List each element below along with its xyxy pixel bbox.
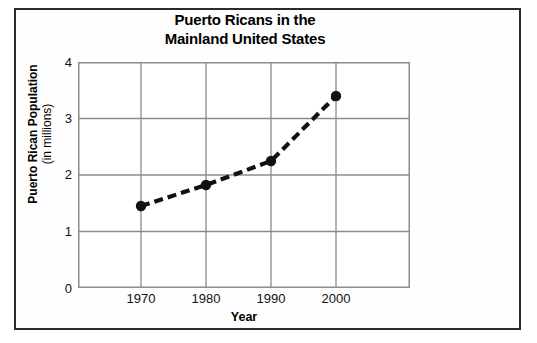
- chart-title-line-2: Mainland United States: [70, 29, 420, 48]
- y-axis-title-main: Puerto Rican Population: [26, 34, 40, 234]
- y-tick-3: 3: [50, 112, 72, 125]
- y-axis-tick-labels: 4 3 2 1 0: [46, 62, 72, 288]
- x-tick-1990: 1990: [241, 292, 301, 306]
- data-point-1980[interactable]: [201, 180, 211, 190]
- plot-area: [78, 62, 410, 288]
- chart-title: Puerto Ricans in the Mainland United Sta…: [70, 10, 420, 48]
- y-tick-0: 0: [50, 282, 72, 295]
- data-point-1990[interactable]: [266, 156, 276, 166]
- y-tick-1: 1: [50, 225, 72, 238]
- x-axis-title: Year: [78, 310, 410, 324]
- y-tick-4: 4: [50, 56, 72, 69]
- x-tick-2000: 2000: [306, 292, 366, 306]
- chart-title-line-1: Puerto Ricans in the: [174, 11, 315, 28]
- data-point-2000[interactable]: [331, 91, 341, 101]
- plot-svg: [78, 62, 410, 288]
- x-tick-1970: 1970: [111, 292, 171, 306]
- x-axis-tick-labels: 1970 1980 1990 2000: [78, 292, 410, 312]
- data-point-1970[interactable]: [136, 201, 146, 211]
- chart-figure: Puerto Ricans in the Mainland United Sta…: [0, 0, 537, 343]
- y-tick-2: 2: [50, 168, 72, 181]
- x-tick-1980: 1980: [176, 292, 236, 306]
